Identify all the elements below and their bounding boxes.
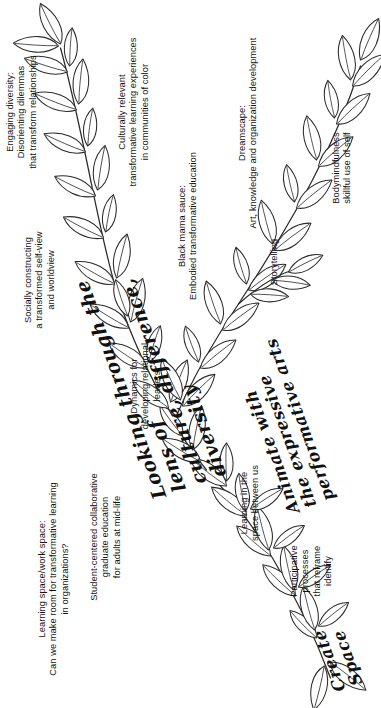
label-storytelling: Storytelling <box>268 212 279 312</box>
label-dynamics-relational-leaders: Dynamics for developing relational leade… <box>128 316 162 456</box>
label-dreamscape: Dreamscape: Art, knowledge and organizat… <box>236 4 259 262</box>
label-bodymindfulness: Bodymindfulness skillful use of self <box>330 98 353 238</box>
vine-mindmap-poster: Looking through the lens of culture, dif… <box>0 0 381 708</box>
label-black-mama-sauce: Black mama sauce: Embodied transformativ… <box>176 118 199 334</box>
label-learning-space-between-us: Learning in the space between us <box>238 446 261 560</box>
label-socially-constructing: Socially constructing a transformed self… <box>22 200 56 360</box>
label-learning-space: Learning space/work space: Can we make r… <box>36 474 70 684</box>
label-engaging-diversity: Engaging diversity: Disorienting dilemma… <box>4 14 38 210</box>
label-culturally-relevant: Culturally relevant transformative learn… <box>116 8 150 216</box>
label-participative-processes: Participative processes that reframe ide… <box>288 520 333 622</box>
label-student-centered: Student-centered collaborative graduate … <box>88 452 122 622</box>
